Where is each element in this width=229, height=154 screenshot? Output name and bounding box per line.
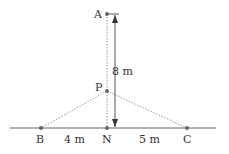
label-A: A — [93, 8, 103, 21]
point-P — [105, 89, 109, 93]
label-C: C — [183, 133, 191, 146]
point-B — [39, 126, 43, 130]
dimension-label-BN: 4 m — [64, 133, 85, 146]
point-N — [105, 126, 109, 130]
label-B: B — [36, 133, 44, 146]
label-P: P — [95, 81, 103, 94]
point-C — [185, 126, 189, 130]
arrow-down-icon — [112, 119, 118, 127]
label-N: N — [102, 133, 112, 146]
dimension-label-AN: 8 m — [112, 65, 133, 78]
point-A — [105, 12, 109, 16]
dotted-line-PC — [107, 91, 187, 128]
dotted-line-PB — [41, 91, 107, 128]
arrow-up-icon — [112, 15, 118, 23]
dimension-label-NC: 5 m — [139, 133, 160, 146]
geometry-diagram: A P B N C 8 m 4 m 5 m — [0, 0, 229, 154]
